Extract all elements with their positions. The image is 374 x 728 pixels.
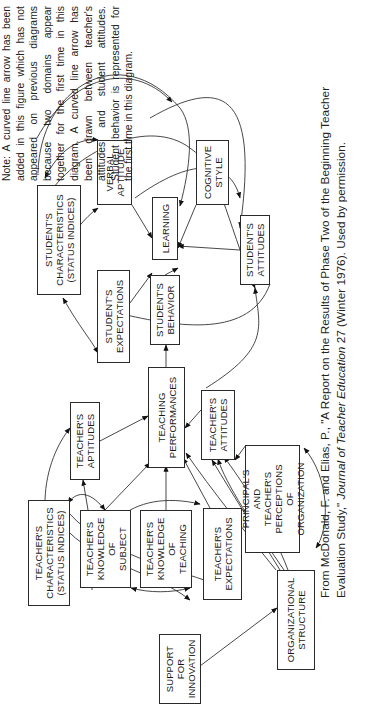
box-support-for-innovation: Support for Innovation [159, 634, 201, 704]
figure-note: Note: A curved line arrow has been added… [0, 6, 136, 181]
box-teachers-characteristics: Teacher's Characteristics (Status Indice… [28, 500, 70, 606]
box-teaching-performances: Teaching Performances [148, 367, 185, 468]
box-learning: Learning [152, 197, 178, 260]
box-students-behavior: Student's Behavior [150, 275, 180, 345]
box-teachers-knowledge-teaching: Teacher's Knowledge of Teaching [140, 510, 192, 588]
box-students-characteristics: Student's Characteristics (Status Indice… [37, 185, 81, 295]
box-principals-perceptions: Principal's and Teacher's Perceptions of… [245, 445, 300, 553]
box-organizational-structure: Organizational Structure [277, 570, 315, 670]
box-students-attitudes: Student's Attitudes [240, 215, 270, 285]
box-teachers-expectations: Teacher's Expectations [203, 508, 242, 600]
box-students-expectations: Student's Expectations [97, 270, 130, 363]
rotated-page: Student's Characteristics (Status Indice… [0, 0, 374, 728]
box-teachers-knowledge-subject: Teacher's Knowledge of Subject [80, 510, 131, 588]
citation-journal: Journal of Teacher Education [334, 347, 348, 500]
box-teachers-attitudes: Teacher's Attitudes [201, 390, 235, 460]
citation-suffix: 27 (Winter 1976). Used by permission. [334, 142, 348, 347]
box-cognitive-style: Cognitive Style [196, 140, 229, 205]
box-teachers-aptitudes: Teacher's Aptitudes [70, 402, 100, 480]
figure-citation: From McDonald, F. and Elias, P., "A Repo… [318, 38, 349, 598]
